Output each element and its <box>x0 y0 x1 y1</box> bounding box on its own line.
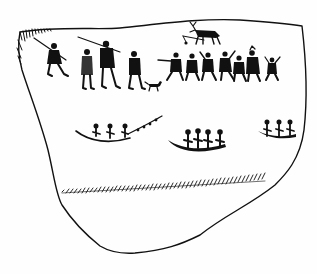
boat-middle <box>168 129 226 151</box>
human-figure <box>34 38 68 76</box>
boat-left <box>76 116 162 141</box>
dog <box>145 81 162 91</box>
human-figure <box>233 55 246 81</box>
human-figure <box>246 46 260 81</box>
human-figure <box>186 53 199 80</box>
illustration: Line drawing of an engraved stone/bark f… <box>0 0 317 274</box>
human-figure <box>200 52 216 80</box>
rowers <box>93 124 128 138</box>
procession-right <box>158 46 280 81</box>
human-figure <box>81 49 94 89</box>
drawing-canvas <box>0 0 317 274</box>
reindeer <box>183 22 220 45</box>
fragment-outline <box>19 20 306 254</box>
rowers <box>264 120 294 137</box>
rowers <box>184 129 224 148</box>
hatched-band <box>62 173 265 193</box>
boat-right <box>258 120 296 138</box>
human-figure <box>219 51 235 80</box>
procession-left <box>34 37 145 89</box>
human-figure <box>265 57 280 80</box>
human-figure <box>158 52 183 80</box>
human-figure <box>129 51 145 89</box>
